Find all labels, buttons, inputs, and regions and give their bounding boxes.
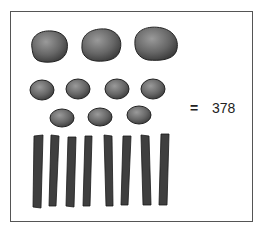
stick-icon <box>83 136 92 206</box>
equals-sign: = <box>190 100 198 116</box>
small-stone-icon <box>105 79 129 99</box>
large-stone-icon <box>32 31 68 62</box>
stick-icon <box>49 135 59 206</box>
stick-icon <box>141 135 151 205</box>
sticks <box>33 134 169 208</box>
stick-icon <box>66 137 76 207</box>
small-stone-icon <box>127 106 151 124</box>
small-stone-icon <box>88 108 112 126</box>
stick-icon <box>159 134 169 205</box>
large-stone-icon <box>82 29 121 61</box>
large-stones <box>32 27 178 62</box>
small-stone-icon <box>30 80 54 100</box>
large-stone-icon <box>135 27 177 60</box>
total-value: 378 <box>212 100 235 116</box>
small-stone-icon <box>66 79 90 99</box>
small-stones <box>30 79 165 127</box>
stick-icon <box>33 135 43 208</box>
small-stone-icon <box>50 109 74 127</box>
stick-icon <box>104 135 113 206</box>
stick-icon <box>121 136 131 205</box>
small-stone-icon <box>141 79 165 99</box>
